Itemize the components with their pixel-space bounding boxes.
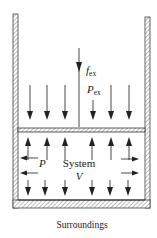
piston — [18, 128, 145, 132]
external-pressure-arrows — [27, 85, 132, 120]
piston-cylinder-diagram: fex Pex P System V Surroundings — [0, 0, 157, 238]
bottom-wall — [13, 200, 150, 208]
internal-pressure-down-arrows — [25, 180, 131, 196]
external-force-label: fex — [86, 64, 96, 78]
left-wall — [13, 14, 18, 208]
external-force-arrow — [76, 48, 82, 127]
right-wall — [145, 17, 150, 208]
internal-pressure-left-arrows — [20, 156, 38, 176]
system-label: System — [63, 157, 96, 169]
internal-pressure-label: P — [38, 157, 46, 169]
internal-pressure-right-arrows — [121, 157, 139, 176]
surroundings-label: Surroundings — [56, 220, 108, 230]
volume-label: V — [76, 170, 84, 182]
external-pressure-label: Pex — [86, 83, 101, 97]
